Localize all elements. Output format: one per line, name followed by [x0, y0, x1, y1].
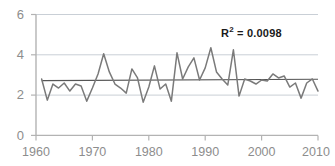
y-tick-label-0: 0 — [2, 129, 24, 142]
y-tick-label-6: 6 — [2, 8, 24, 21]
x-tick-label-1960: 1960 — [16, 146, 56, 159]
y-tick-label-4: 4 — [2, 48, 24, 61]
x-tick-label-1990: 1990 — [185, 146, 225, 159]
data-line-series — [42, 48, 318, 102]
r-squared-prefix: R — [221, 27, 229, 39]
y-tick-label-2: 2 — [2, 88, 24, 101]
x-tick-label-2010: 2010 — [296, 146, 335, 159]
y-tick-marks — [31, 15, 36, 136]
trend-line — [42, 79, 318, 80]
x-tick-label-2000: 2000 — [242, 146, 282, 159]
r-squared-annotation: R2 = 0.0098 — [221, 25, 282, 39]
x-tick-marks — [36, 135, 318, 140]
x-tick-label-1970: 1970 — [72, 146, 112, 159]
r-squared-value: = 0.0098 — [234, 27, 282, 39]
x-tick-label-1980: 1980 — [129, 146, 169, 159]
